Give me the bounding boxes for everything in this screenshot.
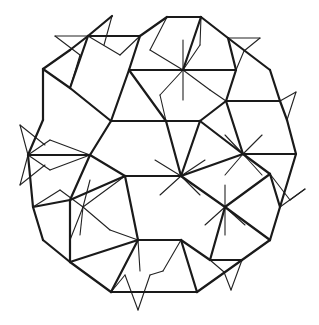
thick-edge — [43, 240, 70, 262]
thin-edge — [244, 38, 260, 51]
thick-edge — [70, 88, 111, 121]
thick-edge — [225, 207, 270, 240]
thick-edge — [270, 174, 280, 207]
thick-edge — [181, 240, 197, 292]
thick-edge — [270, 70, 280, 101]
thin-edge — [138, 240, 140, 271]
thin-edge — [20, 155, 28, 185]
thick-edge — [90, 155, 125, 176]
thick-edge — [90, 121, 111, 155]
thick-edge — [33, 207, 43, 240]
thick-edge — [111, 70, 129, 121]
thin-edge — [83, 207, 110, 230]
thin-edge — [50, 140, 90, 155]
thick-edge — [43, 69, 70, 88]
thick-edge — [287, 120, 296, 154]
thin-edge — [183, 70, 210, 90]
thin-edge-layer — [20, 16, 305, 310]
thick-edge — [181, 176, 225, 207]
thin-edge — [210, 260, 224, 272]
thin-edge — [150, 50, 183, 70]
thin-edge — [150, 271, 163, 275]
thick-edge — [201, 17, 228, 38]
thick-edge — [210, 207, 225, 260]
thick-edge — [43, 50, 70, 69]
thick-edge — [140, 17, 167, 36]
thick-edge — [125, 176, 138, 240]
thin-edge — [28, 155, 50, 170]
thin-edge — [210, 90, 226, 101]
thick-edge — [280, 154, 296, 207]
thin-edge — [243, 135, 262, 154]
thin-edge — [163, 240, 181, 271]
thick-edge — [243, 154, 270, 174]
thin-edge — [110, 230, 138, 240]
thick-edge — [226, 70, 236, 101]
thick-edge — [270, 207, 280, 240]
thick-edge — [181, 121, 200, 176]
tiling-diagram — [0, 0, 319, 325]
thick-edge — [28, 155, 33, 207]
thin-edge — [290, 189, 305, 200]
thin-edge — [183, 45, 200, 70]
thick-edge — [225, 174, 270, 207]
thin-edge — [20, 125, 28, 155]
thick-edge — [226, 101, 243, 154]
thin-edge — [224, 272, 231, 290]
thick-edge — [197, 260, 242, 292]
thin-edge — [236, 51, 244, 70]
thin-edge — [160, 176, 181, 195]
thick-edge — [183, 17, 201, 70]
thick-edge — [200, 101, 226, 121]
thick-edge — [88, 16, 112, 36]
thin-edge — [20, 165, 45, 185]
thin-edge — [160, 70, 183, 95]
thick-edge — [242, 240, 270, 260]
thick-edge — [200, 121, 243, 154]
thick-edge — [70, 262, 111, 292]
thick-edge — [280, 101, 287, 120]
